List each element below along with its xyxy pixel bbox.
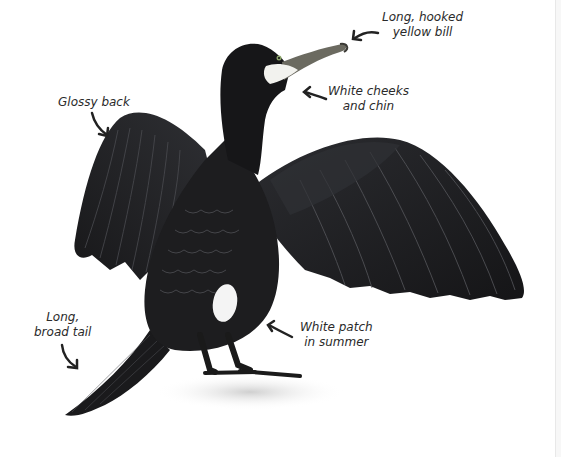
page-edge-strip [556,0,561,457]
arrow-patch-icon [268,321,292,337]
label-bill-line1: Long, hooked [382,10,463,25]
arrow-cheeks-icon [304,87,326,99]
cormorant-diagram: Long, hooked yellow bill White cheeks an… [0,0,561,457]
cormorant-illustration [0,0,561,457]
label-patch-line2: in summer [300,335,373,350]
label-cheeks: White cheeks and chin [328,84,409,114]
label-cheeks-line1: White cheeks [328,84,409,99]
label-cheeks-line2: and chin [328,99,409,114]
arrow-tail-icon [62,345,77,368]
label-tail: Long, broad tail [34,310,91,340]
label-patch-line1: White patch [300,320,373,335]
ground-shadow [155,374,345,410]
label-bill-line2: yellow bill [382,25,463,40]
label-bill: Long, hooked yellow bill [382,10,463,40]
label-back-line1: Glossy back [58,95,130,110]
label-tail-line1: Long, [34,310,91,325]
label-back: Glossy back [58,95,130,110]
arrow-bill-icon [353,31,378,40]
label-patch: White patch in summer [300,320,373,350]
tail [65,330,170,416]
label-tail-line2: broad tail [34,325,91,340]
right-wing [255,137,524,300]
bill [282,44,346,80]
arrow-back-icon [92,113,108,136]
